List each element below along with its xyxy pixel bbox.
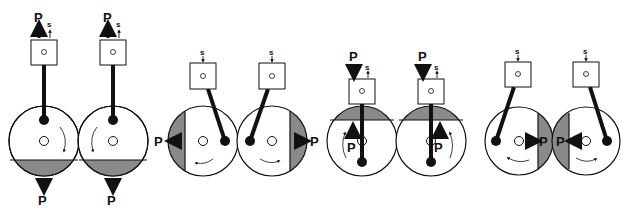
stroke-label: s	[269, 48, 274, 57]
stroke-label: s	[200, 48, 205, 57]
stroke-label: s	[116, 20, 121, 29]
pressure-label: P	[103, 10, 112, 25]
axle-icon	[109, 137, 118, 146]
stroke-label: s	[434, 63, 439, 72]
pressure-label: P	[418, 49, 427, 64]
pressure-label: P	[34, 10, 43, 25]
pressure-label: P	[310, 134, 319, 149]
axle-icon	[268, 137, 277, 146]
pressure-label: P	[539, 134, 548, 149]
pressure-label: P	[38, 193, 47, 208]
axle-icon	[582, 137, 591, 146]
stroke-label: s	[47, 20, 52, 29]
pressure-label: P	[154, 134, 163, 149]
stage-3: P P P s P s	[320, 49, 480, 176]
pressure-label: P	[107, 193, 116, 208]
axle-icon	[40, 137, 49, 146]
axle-icon	[515, 137, 524, 146]
stage-2: s s P P	[154, 48, 319, 190]
pressure-label: P	[349, 49, 358, 64]
stage-4: P P s s	[485, 47, 620, 190]
stroke-label: s	[365, 63, 370, 72]
stage-1: P s P s P P	[0, 10, 170, 208]
pressure-label: P	[556, 134, 565, 149]
pressure-label: P	[347, 140, 356, 155]
mechanism-diagram: P s P s P P	[0, 0, 629, 211]
pressure-label: P	[434, 140, 443, 155]
stroke-label: s	[515, 47, 520, 56]
stroke-label: s	[583, 47, 588, 56]
axle-icon	[199, 137, 208, 146]
